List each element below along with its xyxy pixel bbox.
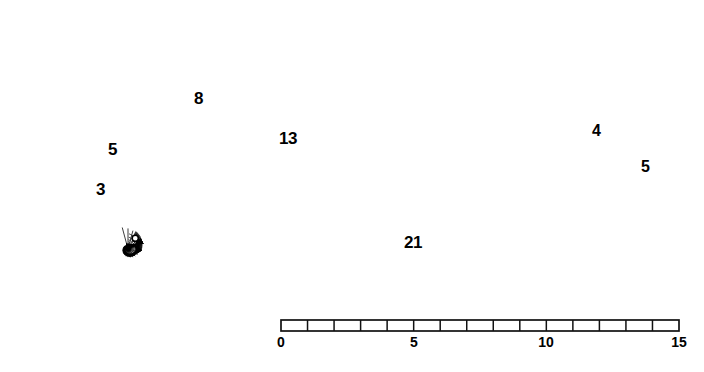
fib-label-8: 8 [194, 90, 203, 107]
fib-label-5: 5 [108, 141, 117, 158]
scale-bar-graphic [281, 320, 679, 331]
fib-label-21: 21 [404, 234, 422, 251]
spiral-diagram-svg [0, 0, 704, 372]
scale-tick-label-5: 5 [394, 335, 434, 349]
spiral-end-marker [132, 235, 138, 241]
square-width-label: 4 [592, 123, 601, 139]
fib-label-13: 13 [279, 130, 297, 147]
scale-bar-outline [281, 320, 679, 331]
square-height-label: 5 [641, 159, 650, 175]
scale-tick-label-0: 0 [261, 335, 301, 349]
scale-tick-label-15: 15 [659, 335, 699, 349]
scale-tick-label-10: 10 [526, 335, 566, 349]
fib-label-3: 3 [96, 181, 105, 198]
figure-canvas: 3 5 8 13 21 4 5 0 5 10 15 [0, 0, 704, 372]
